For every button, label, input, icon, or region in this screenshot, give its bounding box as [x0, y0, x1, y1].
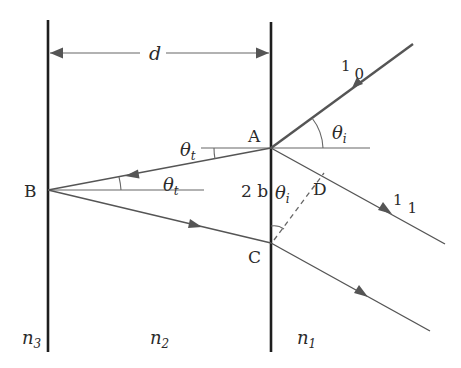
point-B-label: B — [24, 181, 37, 201]
arrow-right-icon — [256, 48, 269, 59]
reflected-arrow-icon — [378, 202, 392, 214]
n3-label: n3 — [22, 327, 42, 351]
ray-AB-arrow-icon — [125, 170, 140, 179]
theta-t-label-A: θt — [180, 139, 196, 163]
arrow-left-icon — [50, 48, 63, 59]
point-C-label: C — [248, 247, 261, 267]
thin-film-diagram: d A B C D 2 b θi θt θt θi 10 11 n3 n2 n1 — [0, 0, 461, 368]
angle-arc-theta-i-A — [312, 118, 323, 148]
n2-label: n2 — [150, 327, 169, 351]
point-A-label: A — [247, 126, 261, 146]
ray-BC — [48, 190, 271, 243]
incident-ray-label: 10 — [341, 57, 364, 83]
transmitted-ray-C — [271, 243, 430, 331]
separation-label: 2 b — [241, 181, 268, 201]
angle-arc-theta-i-C — [271, 226, 284, 229]
thickness-label: d — [149, 42, 161, 64]
reflected-ray — [271, 148, 445, 244]
ray-C-arrow-icon — [354, 285, 368, 297]
angle-arc-theta-t-B — [119, 177, 121, 190]
angle-arc-theta-t-A — [214, 148, 215, 159]
reflected-ray-label: 11 — [393, 191, 417, 217]
ray-BC-arrow-icon — [188, 219, 202, 228]
n1-label: n1 — [297, 327, 316, 351]
point-D-label: D — [313, 179, 327, 199]
refracted-ray-AB — [48, 148, 271, 190]
theta-i-label-A: θi — [332, 122, 347, 146]
thickness-dimension-arrow: d — [50, 42, 269, 64]
theta-i-label-C: θi — [275, 182, 290, 206]
theta-t-label-B: θt — [163, 174, 179, 198]
